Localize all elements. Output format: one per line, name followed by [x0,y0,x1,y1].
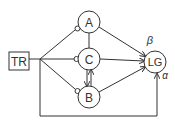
edge-a-lg [99,27,145,56]
edge-b-lg [99,67,145,92]
node-c-label: C [85,53,94,67]
edge-feedback-loop [40,59,157,116]
node-a-label: A [85,16,93,30]
edge-junction-b [40,59,75,89]
alpha-label: α [162,70,168,81]
tr-label: TR [11,55,27,69]
node-b-label: B [85,91,93,105]
beta-label: β [146,34,154,46]
network-diagram: TR A C B LG β α [0,0,175,124]
edge-c-lg [100,59,144,61]
node-lg-label: LG [148,56,163,68]
edge-junction-a [40,30,75,59]
